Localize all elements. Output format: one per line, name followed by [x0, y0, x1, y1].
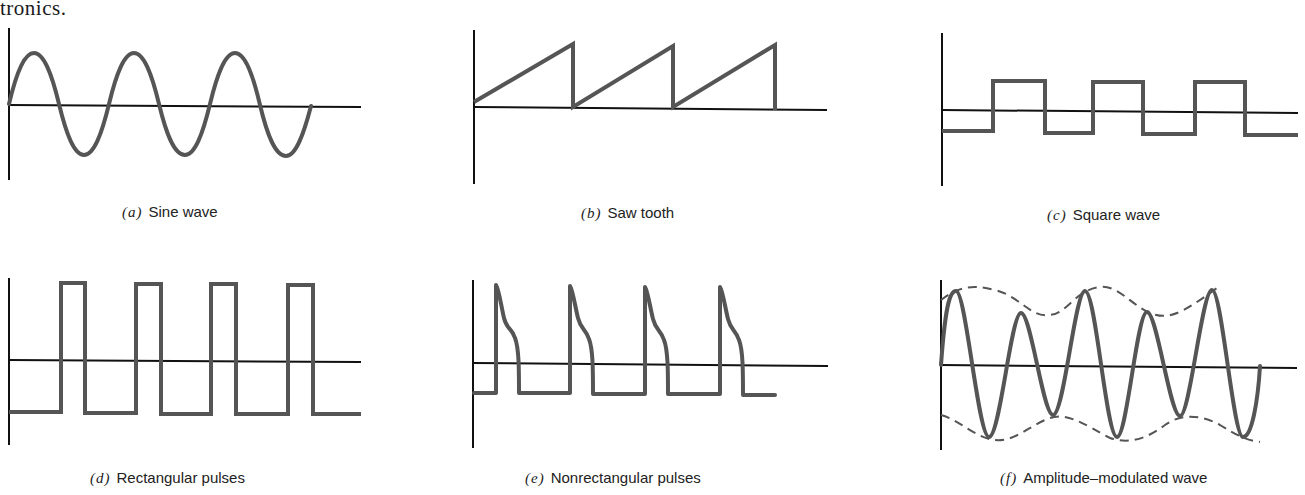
caption-title: Nonrectangular pulses [551, 469, 701, 486]
caption-title: Sine wave [149, 203, 218, 220]
caption-title: Amplitude–modulated wave [1023, 469, 1207, 486]
square-wave-plot [942, 33, 1298, 186]
caption-title: Saw tooth [608, 204, 675, 221]
caption-tag: (f) [1000, 470, 1017, 486]
caption-tag: (b) [581, 205, 602, 221]
sawtooth-curve [474, 44, 775, 110]
am-carrier-curve [941, 290, 1260, 437]
rectangular-pulses-curve [9, 283, 361, 414]
rectangular-pulses-plot [9, 278, 361, 445]
caption-sine-wave: (a)Sine wave [122, 203, 218, 221]
caption-am-wave: (f)Amplitude–modulated wave [1000, 469, 1207, 487]
caption-title: Square wave [1073, 206, 1161, 223]
caption-nonrectangular-pulses: (e)Nonrectangular pulses [525, 469, 701, 487]
sine-wave-plot [9, 28, 361, 180]
caption-tag: (d) [90, 470, 111, 486]
caption-tag: (a) [122, 204, 143, 220]
nonrectangular-pulses-plot [473, 280, 828, 448]
caption-rectangular-pulses: (d)Rectangular pulses [90, 469, 245, 487]
nonrectangular-pulses-curve [474, 285, 775, 395]
caption-square-wave: (c)Square wave [1047, 206, 1160, 224]
am-wave-plot [941, 280, 1297, 450]
x-axis [473, 363, 828, 366]
caption-tag: (e) [525, 470, 545, 486]
caption-sawtooth: (b)Saw tooth [581, 204, 674, 222]
square-wave-curve [942, 81, 1298, 135]
caption-title: Rectangular pulses [117, 469, 245, 486]
x-axis [9, 105, 361, 107]
caption-tag: (c) [1047, 207, 1067, 223]
waveform-figures [0, 0, 1305, 495]
x-axis [941, 365, 1297, 368]
sawtooth-wave-plot [474, 30, 827, 184]
